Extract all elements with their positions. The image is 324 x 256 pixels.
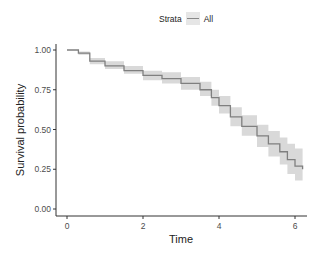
y-tick-label: 0.00 xyxy=(34,204,51,214)
x-axis-title: Time xyxy=(169,233,193,245)
y-tick-label: 0.25 xyxy=(34,164,51,174)
y-tick-label: 0.75 xyxy=(34,85,51,95)
x-tick-label: 6 xyxy=(293,221,298,231)
x-tick-label: 2 xyxy=(141,221,146,231)
survival-curve xyxy=(67,50,303,169)
survival-plot: 0.000.250.500.751.000246TimeSurvival pro… xyxy=(0,0,324,256)
y-tick-label: 1.00 xyxy=(34,45,51,55)
x-tick-label: 4 xyxy=(217,221,222,231)
x-tick-label: 0 xyxy=(65,221,70,231)
y-tick-label: 0.50 xyxy=(34,125,51,135)
ci-band xyxy=(67,50,303,184)
km-line xyxy=(67,50,303,169)
confidence-band xyxy=(67,50,303,184)
y-axis-title: Survival probability xyxy=(14,83,26,176)
